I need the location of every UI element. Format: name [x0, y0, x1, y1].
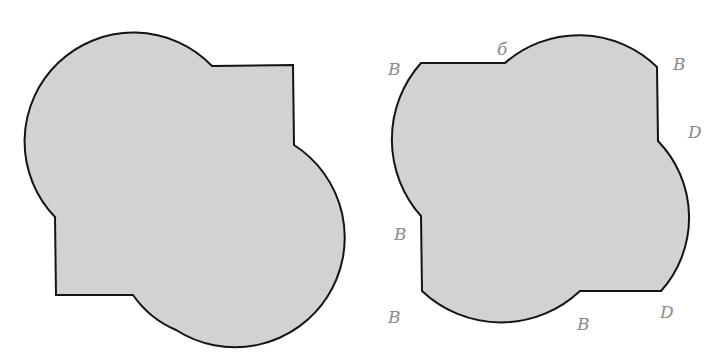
label-right-middle: D	[687, 122, 702, 142]
label-left-middle: B	[393, 224, 407, 244]
label-bottom-middle: B	[576, 314, 590, 334]
left-shape	[25, 33, 345, 348]
label-top-left: B	[387, 59, 401, 79]
label-top-right: B	[672, 54, 686, 74]
label-top-middle: б	[497, 39, 508, 59]
right-shape	[392, 35, 689, 322]
label-bottom-right: D	[659, 302, 674, 322]
label-bottom-left: B	[387, 307, 401, 327]
figure-canvas: B б B D B B B D	[0, 0, 718, 362]
